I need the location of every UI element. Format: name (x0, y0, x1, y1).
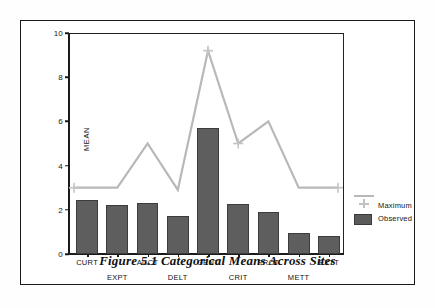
bar-extt (318, 236, 340, 254)
bar-acct (137, 203, 159, 254)
y-tick-label: 2 (58, 205, 63, 214)
bar-gent (197, 128, 219, 254)
chart-legend: Maximum Observed (354, 189, 414, 233)
y-axis-title: MEAN (82, 127, 91, 151)
bar-curt (76, 200, 98, 254)
plot-area: 0246810 CURTEXPTACCTDELTGENTCRITPROTMETT… (68, 33, 344, 254)
y-tick-label: 8 (58, 73, 63, 82)
y-tick-label: 10 (54, 29, 63, 38)
x-label-crit: CRIT (229, 273, 248, 282)
figure-border: 0246810 CURTEXPTACCTDELTGENTCRITPROTMETT… (20, 20, 415, 285)
y-tick-mark (65, 165, 69, 167)
y-axis-line (68, 33, 70, 254)
figure-caption: Figure 5.1 Categorical Means Across Site… (21, 253, 414, 269)
y-tick-label: 4 (58, 161, 63, 170)
y-tick-mark (65, 76, 69, 78)
legend-line-icon (354, 195, 374, 197)
bar-delt (167, 216, 189, 254)
y-tick-mark (65, 32, 69, 34)
legend-label-maximum: Maximum (378, 201, 412, 210)
legend-item-maximum: Maximum (354, 189, 414, 211)
legend-label-observed: Observed (378, 214, 412, 223)
x-label-mett: METT (288, 273, 310, 282)
y-tick-label: 6 (58, 117, 63, 126)
plot-top-border (68, 33, 344, 34)
legend-marker-icon (359, 203, 369, 205)
plot-right-border (343, 33, 344, 254)
figure-page: 0246810 CURTEXPTACCTDELTGENTCRITPROTMETT… (0, 0, 436, 308)
bar-prot (258, 212, 280, 254)
bar-expt (106, 205, 128, 254)
y-tick-mark (65, 209, 69, 211)
x-label-expt: EXPT (107, 273, 128, 282)
x-label-delt: DELT (168, 273, 188, 282)
bar-crit (227, 204, 249, 254)
legend-item-observed: Observed (354, 211, 414, 233)
legend-bar-swatch-icon (354, 214, 372, 225)
bar-mett (288, 233, 310, 254)
y-tick-mark (65, 121, 69, 123)
